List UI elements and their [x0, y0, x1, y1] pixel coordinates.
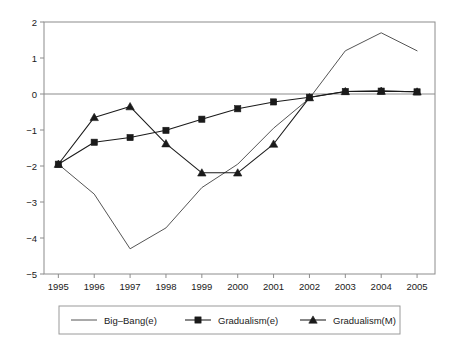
y-tick-label: −2: [26, 161, 37, 172]
data-point-marker: [163, 127, 169, 133]
x-tick-label: 1998: [155, 281, 176, 292]
data-point-marker: [195, 317, 201, 323]
y-tick-label: 2: [32, 17, 37, 28]
x-tick-label: 1997: [120, 281, 141, 292]
data-point-marker: [126, 103, 134, 110]
chart-figure: 210−1−2−3−4−5199519961997199819992000200…: [0, 0, 451, 349]
legend: Big–Bang(e)Gradualism(e)Gradualism(M): [59, 306, 400, 334]
series-big-bange: [58, 33, 417, 249]
y-tick-label: 0: [32, 89, 37, 100]
y-tick-label: −5: [26, 269, 37, 280]
series-line: [58, 33, 417, 249]
data-point-marker: [91, 139, 97, 145]
series-line: [58, 91, 417, 164]
y-tick-label: 1: [32, 53, 37, 64]
y-tick-label: −1: [26, 125, 37, 136]
plot-frame: [44, 22, 435, 274]
line-chart: 210−1−2−3−4−5199519961997199819992000200…: [0, 0, 451, 349]
data-point-marker: [235, 106, 241, 112]
x-tick-label: 2002: [299, 281, 320, 292]
x-tick-label: 2003: [335, 281, 356, 292]
y-tick-label: −3: [26, 197, 37, 208]
legend-label: Gradualism(e): [218, 315, 278, 326]
legend-label: Gradualism(M): [333, 315, 396, 326]
data-point-marker: [199, 116, 205, 122]
x-tick-label: 1996: [84, 281, 105, 292]
data-point-marker: [127, 134, 133, 140]
x-tick-label: 1999: [191, 281, 212, 292]
x-axis: 1995199619971998199920002001200220032004…: [48, 274, 428, 292]
x-tick-label: 2004: [371, 281, 392, 292]
data-point-marker: [270, 99, 276, 105]
series-gradualismm: [54, 87, 421, 176]
series-line: [58, 91, 417, 173]
y-axis: 210−1−2−3−4−5: [26, 17, 44, 280]
legend-label: Big–Bang(e): [104, 315, 157, 326]
y-tick-label: −4: [26, 233, 37, 244]
series-gradualisme: [55, 88, 420, 167]
x-tick-label: 2000: [227, 281, 248, 292]
x-tick-label: 1995: [48, 281, 69, 292]
x-tick-label: 2005: [406, 281, 427, 292]
x-tick-label: 2001: [263, 281, 284, 292]
